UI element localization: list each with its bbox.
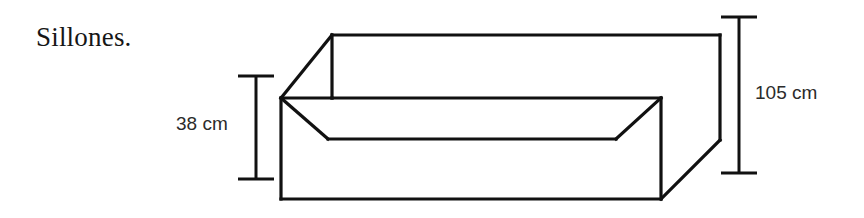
left-armrest-top-diagonal (281, 35, 332, 98)
sofa-outer-shell (281, 35, 720, 199)
figure-container: Sillones. (0, 0, 864, 218)
dimension-label-seat-height: 38 cm (176, 114, 228, 134)
right-base-diagonal-edge (661, 140, 720, 199)
dimension-line-seat-height (238, 76, 274, 179)
sofa-line-drawing (0, 0, 864, 218)
dimension-label-depth: 105 cm (755, 83, 817, 103)
dimension-line-depth (721, 17, 757, 173)
right-armrest-inner-diagonal (616, 98, 661, 139)
left-armrest-inner-diagonal (281, 98, 328, 139)
sofa-interior-edges (281, 35, 661, 199)
